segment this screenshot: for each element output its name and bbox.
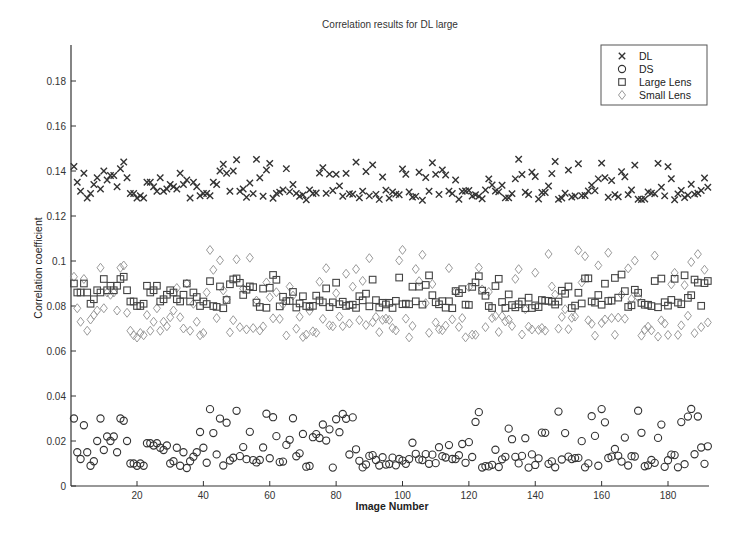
legend-label: Small Lens: [639, 89, 691, 101]
y-tick-label: 0.16: [47, 121, 67, 132]
legend-label: DL: [639, 50, 653, 62]
y-tick-label: 0.14: [47, 166, 67, 177]
x-tick-label: 60: [264, 490, 276, 501]
x-tick-label: 80: [331, 490, 343, 501]
y-tick-label: 0.06: [47, 346, 67, 357]
x-tick-label: 180: [660, 490, 677, 501]
x-axis-ticks: 20406080100120140160180: [131, 481, 676, 501]
y-tick-label: 0.08: [47, 301, 67, 312]
y-tick-label: 0.04: [47, 391, 67, 402]
x-tick-label: 140: [527, 490, 544, 501]
plot-area: [71, 45, 709, 486]
chart-title: Correlation results for DL large: [322, 19, 458, 30]
legend-label: Large Lens: [639, 76, 692, 88]
y-tick-label: 0.18: [47, 76, 67, 87]
y-tick-label: 0.02: [47, 436, 67, 447]
y-axis-label: Correlation coefficient: [32, 217, 44, 318]
x-tick-label: 20: [131, 490, 143, 501]
x-tick-label: 120: [461, 490, 478, 501]
x-tick-label: 160: [593, 490, 610, 501]
x-tick-label: 40: [198, 490, 210, 501]
y-tick-label: 0: [60, 481, 66, 492]
legend-label: DS: [639, 63, 654, 75]
series-dl: [71, 156, 711, 203]
y-tick-label: 0.12: [47, 211, 67, 222]
series-large-lens: [71, 271, 711, 311]
y-tick-label: 0.1: [52, 256, 66, 267]
series-ds: [70, 405, 711, 471]
x-axis-label: Image Number: [356, 500, 429, 512]
data-series: [70, 156, 711, 472]
scatter-chart: Correlation results for DL large 00.020.…: [0, 0, 745, 536]
legend: DLDSLarge LensSmall Lens: [601, 45, 707, 105]
